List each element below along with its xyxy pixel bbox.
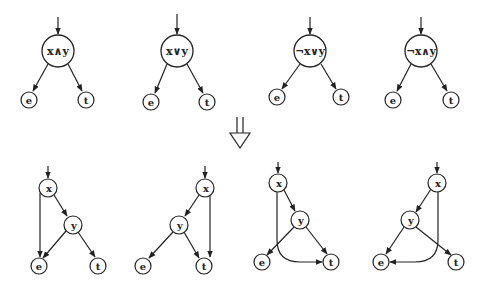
edge-x-y (416, 189, 431, 212)
leaf-t-label: t (454, 257, 459, 268)
leaf-e-label: e (390, 95, 396, 106)
leaf-e-label: e (274, 92, 280, 103)
edge-x-y (185, 195, 199, 216)
leaf-t-label: t (96, 261, 101, 272)
leaf-e-label: e (378, 257, 384, 268)
edge-x-y (54, 195, 67, 216)
bdd-not-x-and-y: x y e t (373, 162, 464, 270)
leaf-e-label: e (26, 95, 32, 106)
leaf-t-label: t (329, 257, 334, 268)
root-label: ¬x∧y (406, 45, 437, 57)
diagram-canvas: x∧y e t x∨y e t ¬x∨y e t ¬x∧y e (0, 0, 482, 288)
node-x-label: x (203, 183, 210, 194)
root-label: ¬x∨y (295, 45, 326, 57)
edge-to-t (68, 64, 82, 91)
leaf-t-label: t (84, 95, 89, 106)
edge-y-t (416, 227, 451, 255)
edge-to-t (431, 64, 447, 91)
edge-to-e (397, 64, 411, 91)
bdd-and: x y e t (31, 166, 106, 274)
leaf-e-label: e (148, 97, 154, 108)
leaf-e-label: e (140, 261, 146, 272)
leaf-t-label: t (202, 261, 207, 272)
node-y-label: y (70, 220, 78, 231)
edge-y-e (149, 232, 173, 258)
leaf-e-label: e (36, 261, 42, 272)
edge-to-t (321, 64, 336, 89)
edge-y-e (267, 227, 294, 255)
node-x-label: x (435, 178, 442, 189)
leaf-t-label: t (449, 95, 454, 106)
leaf-t-label: t (339, 92, 344, 103)
edge-y-e (386, 227, 404, 254)
graph-not-x-and-y: ¬x∧y e t (385, 17, 459, 108)
edge-to-e (155, 64, 167, 93)
graph-and: x∧y e t (21, 17, 94, 108)
leaf-t-label: t (205, 97, 210, 108)
node-y-label: y (176, 220, 184, 231)
edge-y-t (184, 232, 199, 258)
root-label: x∧y (47, 45, 69, 58)
node-y-label: y (297, 215, 305, 226)
node-x-label: x (276, 178, 283, 189)
graph-or: x∨y e t (143, 14, 215, 110)
bdd-not-x-or-y: x y e t (254, 162, 339, 270)
edge-to-t (187, 64, 203, 93)
edge-to-e (282, 64, 300, 89)
bdd-or: x y e t (135, 166, 214, 274)
leaf-e-label: e (259, 257, 265, 268)
edge-to-e (33, 64, 48, 91)
graph-not-x-or-y: ¬x∨y e t (269, 17, 349, 105)
edge-y-t (306, 227, 327, 254)
edge-y-e (43, 231, 66, 258)
node-x-label: x (46, 183, 53, 194)
root-label: x∨y (166, 45, 188, 58)
edge-y-t (78, 232, 95, 257)
edge-x-y (284, 190, 295, 211)
node-y-label: y (407, 215, 415, 226)
transform-arrow-icon (230, 117, 250, 148)
